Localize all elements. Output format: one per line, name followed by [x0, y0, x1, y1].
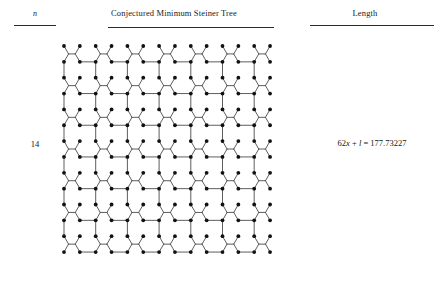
steiner-terminal	[110, 250, 114, 254]
steiner-terminal	[221, 171, 225, 175]
steiner-terminal	[126, 123, 130, 127]
steiner-terminal	[78, 187, 82, 191]
steiner-terminal	[268, 108, 272, 112]
steiner-terminal	[189, 218, 193, 222]
steiner-terminal	[78, 234, 82, 238]
steiner-terminal	[78, 60, 82, 64]
steiner-terminal	[252, 76, 256, 80]
steiner-terminal	[268, 218, 272, 222]
steiner-terminal	[141, 139, 145, 143]
steiner-terminal	[221, 234, 225, 238]
steiner-terminal	[205, 250, 209, 254]
steiner-terminal	[94, 44, 98, 48]
steiner-terminal	[126, 171, 130, 175]
steiner-terminal	[236, 250, 240, 254]
steiner-terminal	[141, 108, 145, 112]
steiner-terminal	[141, 171, 145, 175]
steiner-terminal	[221, 203, 225, 207]
steiner-terminal	[110, 76, 114, 80]
steiner-tree-svg	[58, 40, 286, 270]
steiner-terminal	[110, 44, 114, 48]
steiner-terminal	[141, 155, 145, 159]
steiner-terminal	[252, 123, 256, 127]
steiner-terminal	[126, 250, 130, 254]
steiner-terminal	[94, 139, 98, 143]
steiner-terminal	[205, 155, 209, 159]
steiner-terminal	[173, 139, 177, 143]
steiner-terminal	[157, 155, 161, 159]
steiner-terminal	[173, 60, 177, 64]
steiner-terminal	[78, 203, 82, 207]
steiner-terminal	[173, 76, 177, 80]
steiner-terminal	[62, 108, 66, 112]
steiner-terminal	[78, 218, 82, 222]
steiner-terminal	[110, 92, 114, 96]
steiner-terminal	[141, 218, 145, 222]
steiner-terminal	[189, 155, 193, 159]
steiner-terminal	[126, 44, 130, 48]
row-value-n: 14	[14, 139, 56, 149]
steiner-terminal	[252, 234, 256, 238]
steiner-terminal	[189, 108, 193, 112]
steiner-terminal	[189, 60, 193, 64]
steiner-terminal	[126, 139, 130, 143]
steiner-terminal	[236, 218, 240, 222]
steiner-terminal	[157, 139, 161, 143]
steiner-terminal	[78, 171, 82, 175]
steiner-terminal	[268, 171, 272, 175]
steiner-terminal	[189, 123, 193, 127]
steiner-terminal	[110, 108, 114, 112]
steiner-terminal	[189, 187, 193, 191]
steiner-terminal	[110, 187, 114, 191]
steiner-terminal	[268, 234, 272, 238]
steiner-tree-figure	[58, 40, 286, 270]
column-header-tree: Conjectured Minimum Steiner Tree	[74, 8, 274, 18]
length-operator-equals: =	[361, 138, 370, 148]
table-header: n Conjectured Minimum Steiner Tree Lengt…	[0, 0, 445, 34]
steiner-terminal	[62, 139, 66, 143]
steiner-terminal	[157, 203, 161, 207]
steiner-terminal	[268, 203, 272, 207]
steiner-terminal	[252, 187, 256, 191]
steiner-terminal	[157, 60, 161, 64]
steiner-terminal	[94, 250, 98, 254]
steiner-terminal	[205, 139, 209, 143]
steiner-terminal	[78, 123, 82, 127]
steiner-terminal	[268, 139, 272, 143]
steiner-terminal	[236, 123, 240, 127]
steiner-terminal	[189, 250, 193, 254]
steiner-terminal	[110, 60, 114, 64]
steiner-terminal	[141, 44, 145, 48]
steiner-terminal	[205, 218, 209, 222]
steiner-terminal	[221, 92, 225, 96]
steiner-terminal	[94, 92, 98, 96]
steiner-terminal	[173, 155, 177, 159]
steiner-terminal	[94, 76, 98, 80]
steiner-terminal	[236, 171, 240, 175]
steiner-terminal	[173, 187, 177, 191]
steiner-terminal	[236, 203, 240, 207]
steiner-terminal	[221, 76, 225, 80]
steiner-terminal	[268, 44, 272, 48]
steiner-terminal	[268, 187, 272, 191]
steiner-terminal	[173, 234, 177, 238]
steiner-terminal	[157, 171, 161, 175]
steiner-terminal	[205, 171, 209, 175]
steiner-terminal	[221, 60, 225, 64]
steiner-terminal	[94, 155, 98, 159]
steiner-terminal	[221, 108, 225, 112]
steiner-terminal	[268, 123, 272, 127]
steiner-terminal	[94, 187, 98, 191]
steiner-terminal	[126, 60, 130, 64]
steiner-terminal	[252, 108, 256, 112]
steiner-terminal	[189, 92, 193, 96]
steiner-terminal	[236, 155, 240, 159]
column-header-length: Length	[310, 8, 420, 18]
steiner-terminal	[126, 108, 130, 112]
steiner-terminal	[110, 123, 114, 127]
steiner-terminal	[221, 139, 225, 143]
steiner-terminal	[205, 76, 209, 80]
steiner-terminal	[157, 234, 161, 238]
length-coefficient: 62	[338, 138, 347, 148]
steiner-terminal	[62, 92, 66, 96]
